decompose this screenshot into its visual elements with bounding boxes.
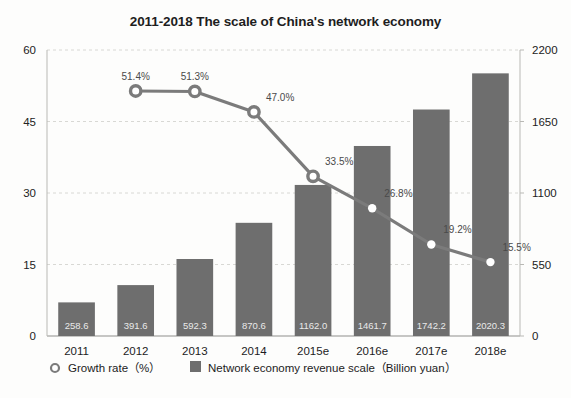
- line-marker: [130, 86, 140, 96]
- svg-text:19.2%: 19.2%: [443, 224, 471, 235]
- line-marker: [190, 86, 200, 96]
- svg-text:391.6: 391.6: [124, 320, 148, 331]
- left-axis: 015304560: [23, 44, 36, 342]
- svg-text:51.4%: 51.4%: [122, 71, 150, 82]
- svg-text:15.5%: 15.5%: [502, 242, 530, 253]
- category-label: 2012: [123, 345, 149, 357]
- svg-text:592.3: 592.3: [183, 320, 207, 331]
- svg-text:1650: 1650: [532, 116, 558, 128]
- chart-plot-area: 015304560 0550110016502200 258.6391.6592…: [0, 0, 571, 398]
- svg-text:15: 15: [23, 259, 36, 271]
- svg-text:30: 30: [23, 187, 36, 199]
- svg-text:870.6: 870.6: [242, 320, 266, 331]
- svg-text:2200: 2200: [532, 44, 558, 56]
- line-marker: [368, 204, 376, 212]
- svg-text:258.6: 258.6: [65, 320, 89, 331]
- svg-text:1461.7: 1461.7: [358, 320, 387, 331]
- svg-text:1742.2: 1742.2: [417, 320, 446, 331]
- category-label: 2017e: [415, 345, 447, 357]
- category-label: 2013: [182, 345, 208, 357]
- chart-figure: 2011-2018 The scale of China's network e…: [0, 0, 571, 398]
- line-marker: [486, 258, 494, 266]
- category-label: 2015e: [297, 345, 329, 357]
- category-label: 2016e: [356, 345, 388, 357]
- svg-text:60: 60: [23, 44, 36, 56]
- legend-marker-revenue-scale: [190, 361, 201, 372]
- bar: [295, 185, 332, 336]
- svg-text:33.5%: 33.5%: [325, 156, 353, 167]
- svg-text:26.8%: 26.8%: [384, 188, 412, 199]
- svg-text:0: 0: [532, 330, 538, 342]
- svg-text:51.3%: 51.3%: [181, 71, 209, 82]
- svg-text:45: 45: [23, 116, 36, 128]
- svg-text:0: 0: [30, 330, 36, 342]
- category-label: 2014: [241, 345, 267, 357]
- svg-text:2020.3: 2020.3: [476, 320, 505, 331]
- line-marker: [427, 240, 435, 248]
- svg-text:550: 550: [532, 259, 551, 271]
- bar: [354, 146, 391, 336]
- line-marker: [308, 171, 318, 181]
- category-label: 2018e: [474, 345, 506, 357]
- svg-text:47.0%: 47.0%: [266, 92, 294, 103]
- legend-label-revenue-scale: Network economy revenue scale（Billion yu…: [208, 362, 456, 374]
- bar-value-labels: 258.6391.6592.3870.61162.01461.71742.220…: [65, 320, 505, 331]
- svg-text:1100: 1100: [532, 187, 557, 199]
- bar: [413, 110, 450, 336]
- category-axis-labels: 20112012201320142015e2016e2017e2018e: [64, 345, 506, 357]
- legend-label-growth-rate: Growth rate（%）: [68, 362, 160, 374]
- bar-series: [58, 73, 509, 336]
- category-label: 2011: [64, 345, 89, 357]
- chart-legend: Growth rate（%）Network economy revenue sc…: [51, 361, 456, 374]
- right-axis: 0550110016502200: [520, 44, 558, 342]
- bar: [472, 73, 509, 336]
- legend-marker-growth-rate: [51, 364, 59, 372]
- line-marker: [249, 107, 259, 117]
- svg-text:1162.0: 1162.0: [299, 320, 327, 331]
